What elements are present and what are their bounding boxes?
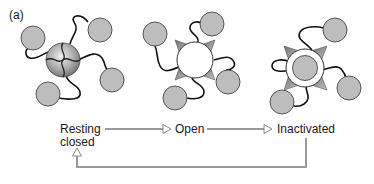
inactivation-ball — [323, 18, 347, 42]
state-label-resting: Resting — [60, 123, 101, 135]
open-pore — [177, 42, 213, 78]
inactivation-ball — [143, 22, 167, 46]
inactivation-ball — [100, 68, 124, 92]
arrow-head-icon — [163, 125, 171, 134]
state-label-open: Open — [175, 123, 204, 135]
inactivation-ball — [337, 76, 361, 100]
open-channel — [143, 12, 240, 110]
panel-label: (a) — [9, 9, 24, 21]
state-label-inactivated: Inactivated — [277, 123, 335, 135]
channel-state-diagram — [0, 0, 374, 184]
inactivation-ball — [36, 82, 60, 106]
inactivation-ball — [163, 86, 187, 110]
plugging-ball — [293, 56, 318, 81]
inactivation-ball — [216, 70, 240, 94]
inactivation-ball — [21, 26, 45, 50]
arrow-head-icon — [264, 125, 272, 134]
inactivation-ball — [88, 18, 112, 42]
inactivation-ball — [200, 12, 224, 36]
inactivated-channel — [270, 18, 361, 114]
state-label-closed: closed — [60, 136, 95, 148]
resting-closed-channel — [21, 16, 124, 106]
arrow-head-icon — [73, 148, 82, 156]
inactivation-ball — [270, 90, 294, 114]
